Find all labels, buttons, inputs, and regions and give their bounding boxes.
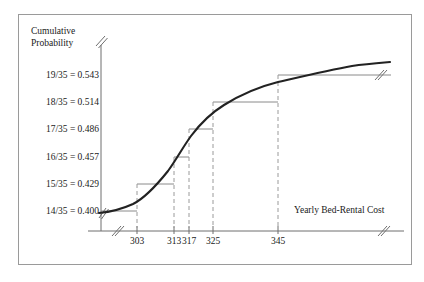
x-tick-marks (137, 226, 278, 234)
y-tick-label-0429: 15/35 = 0.429 (46, 179, 99, 189)
y-tick-label-0400: 14/35 = 0.400 (46, 206, 99, 216)
y-axis-title-line2: Probability (31, 38, 75, 50)
x-tick-label-303: 303 (130, 236, 144, 246)
y-tick-label-0486: 17/35 = 0.486 (46, 124, 99, 134)
x-tick-label-345: 345 (271, 236, 285, 246)
x-tick-label-317: 317 (182, 236, 196, 246)
y-tick-label-0514: 18/35 = 0.514 (46, 97, 99, 107)
cdf-curve (99, 62, 390, 213)
step-dropline-dashed (137, 75, 278, 228)
y-tick-label-0543: 19/35 = 0.543 (46, 70, 99, 80)
figure-container: Cumulative Probability Yearly Bed-Rental… (0, 0, 424, 282)
y-axis-title-line1: Cumulative (31, 26, 75, 38)
step-horizontal-segments (101, 75, 391, 211)
x-tick-label-325: 325 (206, 236, 220, 246)
x-tick-label-313: 313 (167, 236, 181, 246)
x-axis-title: Yearly Bed-Rental Cost (294, 205, 384, 217)
y-tick-label-0457: 16/35 = 0.457 (46, 152, 99, 162)
y-axis-title: Cumulative Probability (31, 26, 75, 49)
y-axis-break-mark-icon (96, 36, 108, 48)
